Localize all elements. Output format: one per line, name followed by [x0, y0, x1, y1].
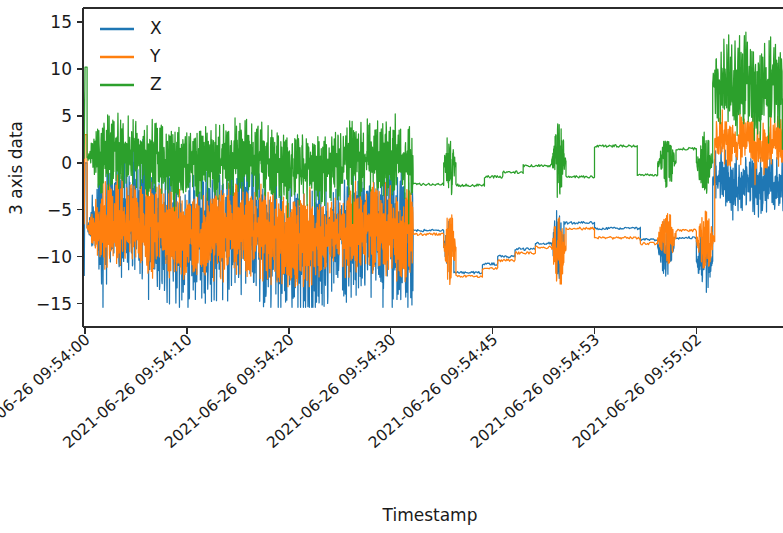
- legend-background: [92, 14, 192, 93]
- y-tick-label: 10: [50, 59, 72, 79]
- legend-label-z: Z: [150, 74, 162, 94]
- x-axis-label: Timestamp: [382, 505, 478, 525]
- y-tick-label: 15: [50, 12, 72, 32]
- y-axis-label: 3 axis data: [6, 121, 26, 215]
- y-tick-label: 5: [61, 106, 72, 126]
- legend-label-y: Y: [149, 46, 161, 66]
- legend-label-x: X: [150, 18, 162, 38]
- y-tick-label: 0: [61, 153, 72, 173]
- legend: X Y Z: [92, 14, 192, 94]
- y-tick-label: −5: [47, 200, 72, 220]
- y-tick-label: −10: [36, 247, 72, 267]
- y-tick-label: −15: [36, 294, 72, 314]
- line-chart-figure: 151050−5−10−15 2021-06-26 09:54:002021-0…: [0, 0, 783, 533]
